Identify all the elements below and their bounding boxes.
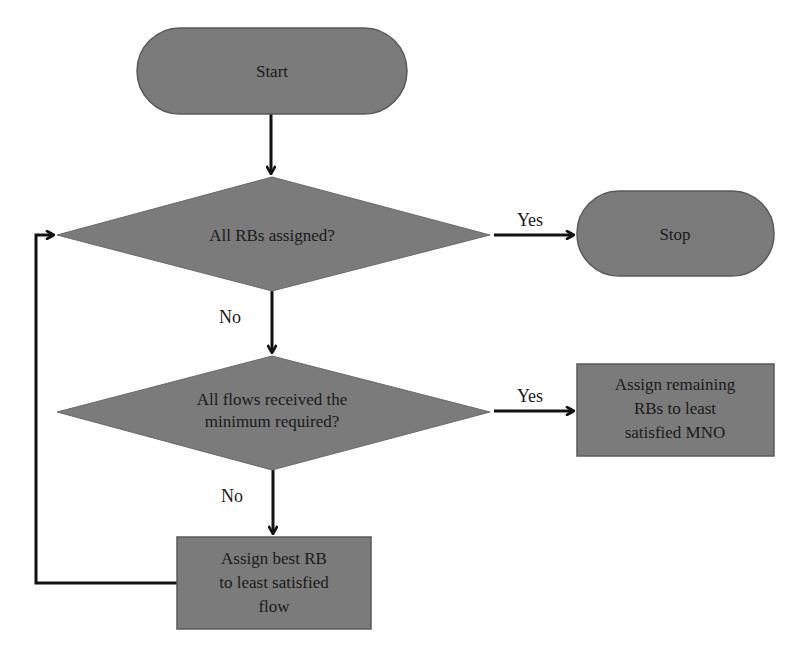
process-assign-best: Assign best RB to least satisfied flow bbox=[177, 537, 371, 629]
edge-label-no: No bbox=[219, 307, 241, 327]
stop-node: Stop bbox=[577, 191, 774, 276]
start-label: Start bbox=[256, 62, 288, 81]
process-assign-remaining: Assign remaining RBs to least satisfied … bbox=[577, 364, 774, 456]
stop-label: Stop bbox=[659, 225, 690, 244]
decision-all-flows-received: All flows received the minimum required? bbox=[57, 356, 490, 470]
edge-flows-no: No bbox=[221, 470, 273, 533]
process-label-line-1: Assign best RB bbox=[221, 549, 327, 568]
edge-flows-yes: Yes bbox=[494, 386, 573, 411]
edge-rbs-yes: Yes bbox=[494, 210, 573, 235]
process-label-line-3: satisfied MNO bbox=[625, 423, 726, 442]
decision-label-line-2: minimum required? bbox=[205, 412, 340, 431]
edge-label-yes: Yes bbox=[517, 210, 543, 230]
process-label-line-2: RBs to least bbox=[634, 399, 716, 418]
edge-label-yes: Yes bbox=[517, 386, 543, 406]
start-node: Start bbox=[137, 28, 407, 114]
flowchart-canvas: Yes No Yes No Start All RBs assigned? St… bbox=[0, 0, 802, 656]
edge-rbs-no: No bbox=[219, 291, 272, 352]
decision-all-rbs-assigned: All RBs assigned? bbox=[57, 177, 490, 291]
process-label-line-1: Assign remaining bbox=[615, 375, 736, 394]
decision-label: All RBs assigned? bbox=[209, 226, 335, 245]
process-label-line-3: flow bbox=[258, 597, 290, 616]
process-label-line-2: to least satisfied bbox=[219, 573, 329, 592]
edge-label-no: No bbox=[221, 486, 243, 506]
decision-label-line-1: All flows received the bbox=[197, 390, 348, 409]
